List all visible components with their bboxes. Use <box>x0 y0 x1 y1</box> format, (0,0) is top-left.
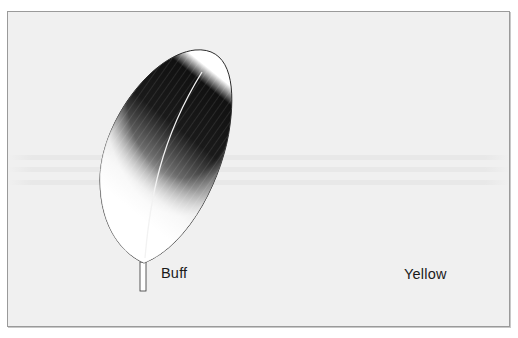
feather-illustration <box>0 0 518 338</box>
yellow-label: Yellow <box>404 266 447 282</box>
buff-label: Buff <box>161 265 187 281</box>
buff-feather-quill <box>140 262 146 291</box>
buff-feather <box>100 50 232 291</box>
